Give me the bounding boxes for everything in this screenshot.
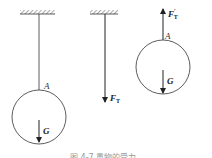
weight-label-right: G <box>167 76 174 86</box>
figure-caption: 图 4-7 重物的受力 <box>70 152 136 158</box>
panel-ball-free-body: F′T A G <box>136 8 190 94</box>
point-a-label-right: A <box>164 31 171 41</box>
panel-rope-free-body: FT <box>90 10 120 104</box>
weight-label: G <box>43 126 50 136</box>
force-diagram: A G FT F′T A G 图 4-7 重物的受力 <box>0 0 212 158</box>
ceiling-middle <box>90 10 118 14</box>
ceiling-left <box>20 10 55 14</box>
panel-suspended-ball: A G <box>12 10 66 144</box>
tension-label: FT <box>109 93 120 104</box>
tension-prime-label: F′T <box>167 8 178 20</box>
point-a-label: A <box>43 81 50 91</box>
